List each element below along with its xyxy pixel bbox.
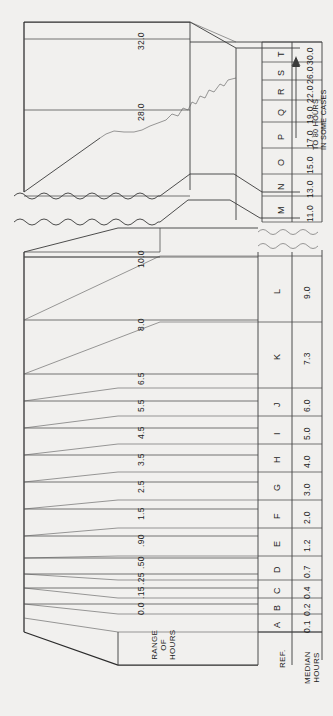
table-cell-ref: H [272,456,282,463]
figure-canvas: 0.0.15.25.50.901.52.53.54.55.56.58.010.0… [0,0,333,716]
table-cell-median: 0.2 [302,603,312,616]
table-cell-median: 9.0 [302,286,312,299]
table-cell-ref: P [276,134,286,140]
range-of-hours-axis-title-line: HOURS [168,630,177,660]
table-cell-median: 30.0 [305,47,315,65]
table-cell-median: 26.0 [305,66,315,84]
ref-axis-title: REF. [278,649,287,668]
median-hours-axis-title-line: HOURS [312,651,321,684]
table-cell-ref: K [272,354,282,360]
range-of-hours-axis-title-line: OF [159,630,168,660]
table-cell-median: 0.1 [302,620,312,633]
axis-tick-label: 1.5 [136,507,146,520]
table-cell-median: 13.0 [305,180,315,198]
table-cell-median: 1.2 [302,539,312,552]
table-cell-median: 15.0 [305,156,315,174]
table-cell-ref: L [272,289,282,294]
arrow-up-icon [292,56,300,138]
table-cell-ref: F [272,513,282,519]
table-cell-ref: I [272,432,282,435]
axis-tick-label: .90 [136,534,146,547]
table-cell-ref: E [272,541,282,547]
table-cell-ref: B [272,605,282,611]
table-cell-median: 5.0 [302,427,312,440]
range-extension-note: TO 80 HOURSIN SOME CASES [312,89,329,150]
table-cell-median: 0.4 [302,586,312,599]
axis-tick-label: 3.5 [136,453,146,466]
axis-tick-label: .15 [136,586,146,599]
axis-tick-label: 0.0 [136,602,146,615]
table-cell-median: 3.0 [302,483,312,496]
table-cell-median: 7.3 [302,352,312,365]
table-cell-ref: D [272,566,282,573]
axis-tick-label: 28.0 [136,103,146,121]
table-cell-ref: T [276,51,286,57]
table-cell-ref: M [276,206,286,214]
table-cell-median: 0.7 [302,565,312,578]
range-of-hours-axis-title-line: RANGE [150,630,159,660]
axis-tick-label: 6.5 [136,372,146,385]
table-cell-ref: S [276,70,286,76]
axis-tick-label: 32.0 [136,32,146,50]
ref-axis-title-line: REF. [278,649,287,668]
table-cell-median: 2.0 [302,511,312,524]
table-cell-median: 4.0 [302,455,312,468]
axis-tick-label: 8.0 [136,318,146,331]
range-of-hours-axis-title: RANGEOFHOURS [150,630,177,660]
table-cell-ref: O [276,159,286,166]
axis-tick-label: 2.5 [136,480,146,493]
table-cell-ref: G [272,484,282,491]
axis-tick-label: 10.0 [136,250,146,268]
technical-diagram-svg [0,0,333,716]
median-hours-axis-title: MEDIANHOURS [303,651,321,684]
table-cell-median: 11.0 [305,205,315,222]
table-row-dividers-lower [258,256,322,632]
range-extension-note-line: IN SOME CASES [320,89,328,150]
table-cell-ref: R [276,88,286,95]
axis-tick-label: .50 [136,556,146,569]
table-cell-ref: N [276,183,286,190]
axis-tick-label: 5.5 [136,399,146,412]
table-cell-ref: J [272,402,282,407]
table-cell-ref: C [272,587,282,594]
median-hours-axis-title-line: MEDIAN [303,651,312,684]
table-cell-ref: A [272,622,282,628]
axis-tick-label: .25 [136,572,146,585]
table-cell-ref: Q [276,109,286,116]
table-cell-median: 6.0 [302,399,312,412]
axis-tick-label: 4.5 [136,426,146,439]
